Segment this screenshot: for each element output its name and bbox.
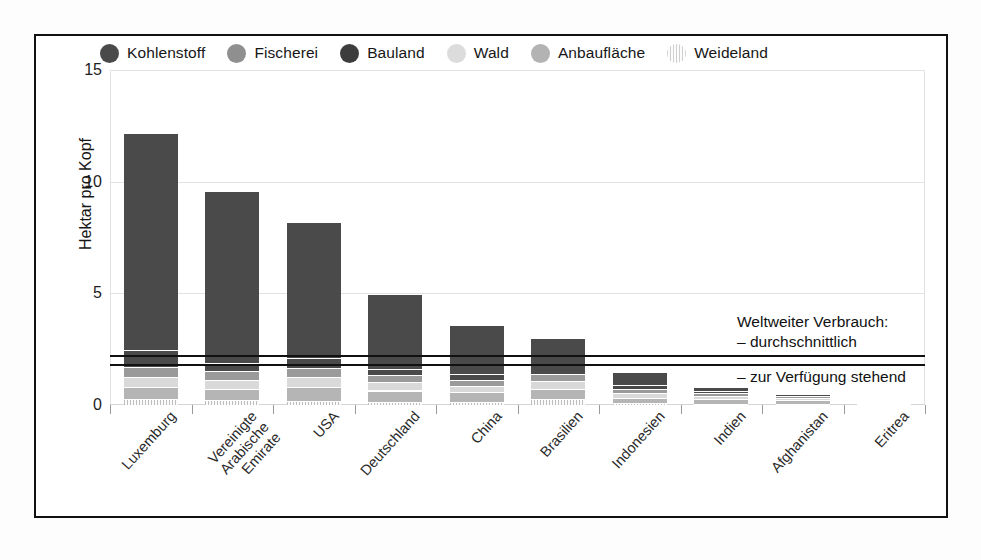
bar-segment-fischerei bbox=[287, 368, 341, 377]
bar-segment-wald bbox=[287, 377, 341, 387]
gridline bbox=[110, 182, 925, 183]
gridline bbox=[110, 70, 925, 71]
bar-segment-anbaufl-che bbox=[776, 400, 830, 404]
x-axis-label-line: Luxemburg bbox=[118, 408, 179, 473]
bar-segment-fischerei bbox=[450, 380, 504, 386]
x-axis-label-line: USA bbox=[310, 408, 342, 441]
legend-item-weideland[interactable]: Weideland bbox=[667, 44, 768, 63]
y-axis-title: Hektar pro Kopf bbox=[77, 94, 95, 294]
reference-line-zur-verf-gung-stehend bbox=[110, 364, 925, 366]
bar-segment-bauland bbox=[368, 369, 422, 376]
reference-annotation-average: Weltweiter Verbrauch: – durchschnittlich bbox=[737, 312, 888, 353]
legend-item-wald[interactable]: Wald bbox=[447, 44, 509, 63]
bar-segment-wald bbox=[450, 386, 504, 393]
bar-segment-bauland bbox=[857, 400, 911, 401]
bar-segment-fischerei bbox=[776, 396, 830, 398]
x-axis-labels: LuxemburgVereinigteArabischeEmirateUSADe… bbox=[110, 408, 925, 518]
x-axis-label: Luxemburg bbox=[118, 408, 179, 473]
bar-segment-anbaufl-che bbox=[287, 387, 341, 400]
bar-segment-bauland bbox=[613, 385, 667, 389]
x-axis-label: Indonesien bbox=[608, 408, 668, 472]
bar-segment-bauland bbox=[450, 374, 504, 380]
bar-segment-anbaufl-che bbox=[124, 387, 178, 399]
legend-swatch-icon bbox=[667, 44, 686, 63]
bar-deutschland[interactable] bbox=[368, 294, 422, 405]
bar-segment-wald bbox=[613, 393, 667, 398]
legend-item-label: Anbaufläche bbox=[558, 44, 645, 62]
x-axis-label: Brasilien bbox=[537, 408, 586, 460]
x-axis-label: Eritrea bbox=[872, 408, 913, 451]
bar-vereinigte-arabische-emirate[interactable] bbox=[205, 191, 259, 405]
bar-usa[interactable] bbox=[287, 222, 341, 405]
x-axis-label-line: China bbox=[467, 408, 504, 447]
x-axis-label: Indien bbox=[711, 408, 750, 448]
x-axis-label-line: Eritrea bbox=[872, 408, 913, 451]
legend-item-bauland[interactable]: Bauland bbox=[340, 44, 425, 63]
legend-item-label: Wald bbox=[474, 44, 509, 62]
bar-segment-anbaufl-che bbox=[368, 391, 422, 402]
bar-segment-fischerei bbox=[694, 393, 748, 395]
bar-segment-anbaufl-che bbox=[205, 389, 259, 400]
chart-legend: KohlenstoffFischereiBaulandWaldAnbaufläc… bbox=[100, 40, 950, 66]
x-axis-label: USA bbox=[310, 408, 342, 441]
bar-segment-kohlenstoff bbox=[450, 325, 504, 374]
bar-indonesien[interactable] bbox=[613, 372, 667, 405]
chart-screenshot: KohlenstoffFischereiBaulandWaldAnbaufläc… bbox=[0, 0, 981, 560]
bar-segment-fischerei bbox=[613, 389, 667, 393]
bar-segment-kohlenstoff bbox=[531, 338, 585, 365]
legend-swatch-icon bbox=[531, 44, 550, 63]
bar-segment-anbaufl-che bbox=[857, 403, 911, 404]
bar-segment-anbaufl-che bbox=[694, 399, 748, 404]
legend-item-label: Bauland bbox=[367, 44, 425, 62]
x-axis-tick bbox=[925, 405, 926, 414]
bar-segment-fischerei bbox=[368, 375, 422, 382]
bar-segment-kohlenstoff bbox=[776, 393, 830, 394]
bar-segment-wald bbox=[368, 382, 422, 390]
legend-swatch-icon bbox=[340, 44, 359, 63]
bar-brasilien[interactable] bbox=[531, 338, 585, 405]
bar-segment-wald bbox=[205, 380, 259, 389]
bar-segment-anbaufl-che bbox=[613, 398, 667, 404]
bar-segment-bauland bbox=[776, 394, 830, 396]
bar-segment-wald bbox=[857, 402, 911, 403]
x-axis-label: Deutschland bbox=[357, 408, 423, 479]
legend-item-fischerei[interactable]: Fischerei bbox=[227, 44, 318, 63]
x-axis-label-line: Brasilien bbox=[537, 408, 586, 460]
bar-segment-wald bbox=[531, 381, 585, 389]
x-axis-label-line: Indonesien bbox=[608, 408, 668, 472]
x-axis-label-line: Deutschland bbox=[357, 408, 423, 479]
bar-segment-bauland bbox=[531, 365, 585, 374]
bar-segment-kohlenstoff bbox=[287, 222, 341, 358]
legend-item-label: Fischerei bbox=[254, 44, 318, 62]
bar-segment-wald bbox=[694, 396, 748, 399]
legend-swatch-icon bbox=[447, 44, 466, 63]
annotation-heading: Weltweiter Verbrauch: bbox=[737, 312, 888, 333]
bar-segment-anbaufl-che bbox=[450, 392, 504, 402]
reference-line-durchschnittlich bbox=[110, 355, 925, 357]
bar-segment-fischerei bbox=[531, 374, 585, 381]
bar-segment-kohlenstoff bbox=[694, 387, 748, 391]
bar-segment-fischerei bbox=[124, 367, 178, 377]
bar-segment-kohlenstoff bbox=[205, 191, 259, 363]
bar-segment-wald bbox=[776, 398, 830, 400]
bar-segment-bauland bbox=[694, 391, 748, 393]
legend-item-label: Weideland bbox=[694, 44, 768, 62]
x-axis-label: Afghanistan bbox=[767, 408, 830, 476]
annotation-average-label: – durchschnittlich bbox=[737, 332, 888, 353]
bar-segment-kohlenstoff bbox=[368, 294, 422, 369]
legend-item-label: Kohlenstoff bbox=[127, 44, 205, 62]
bar-afghanistan[interactable] bbox=[776, 393, 830, 405]
bar-segment-kohlenstoff bbox=[124, 133, 178, 351]
annotation-available-label: – zur Verfügung stehend bbox=[737, 368, 906, 386]
x-axis-label: China bbox=[467, 408, 504, 447]
y-axis-title-wrap: Hektar pro Kopf bbox=[0, 0, 120, 475]
x-axis-label-line: Indien bbox=[711, 408, 750, 448]
legend-item-anbaufl-che[interactable]: Anbaufläche bbox=[531, 44, 645, 63]
bar-indien[interactable] bbox=[694, 387, 748, 405]
x-axis-label: VereinigteArabischeEmirate bbox=[205, 408, 284, 489]
bar-segment-kohlenstoff bbox=[613, 372, 667, 385]
bar-segment-wald bbox=[124, 377, 178, 387]
x-axis-label-line: Afghanistan bbox=[767, 408, 830, 476]
legend-swatch-icon bbox=[227, 44, 246, 63]
bar-segment-anbaufl-che bbox=[531, 389, 585, 399]
